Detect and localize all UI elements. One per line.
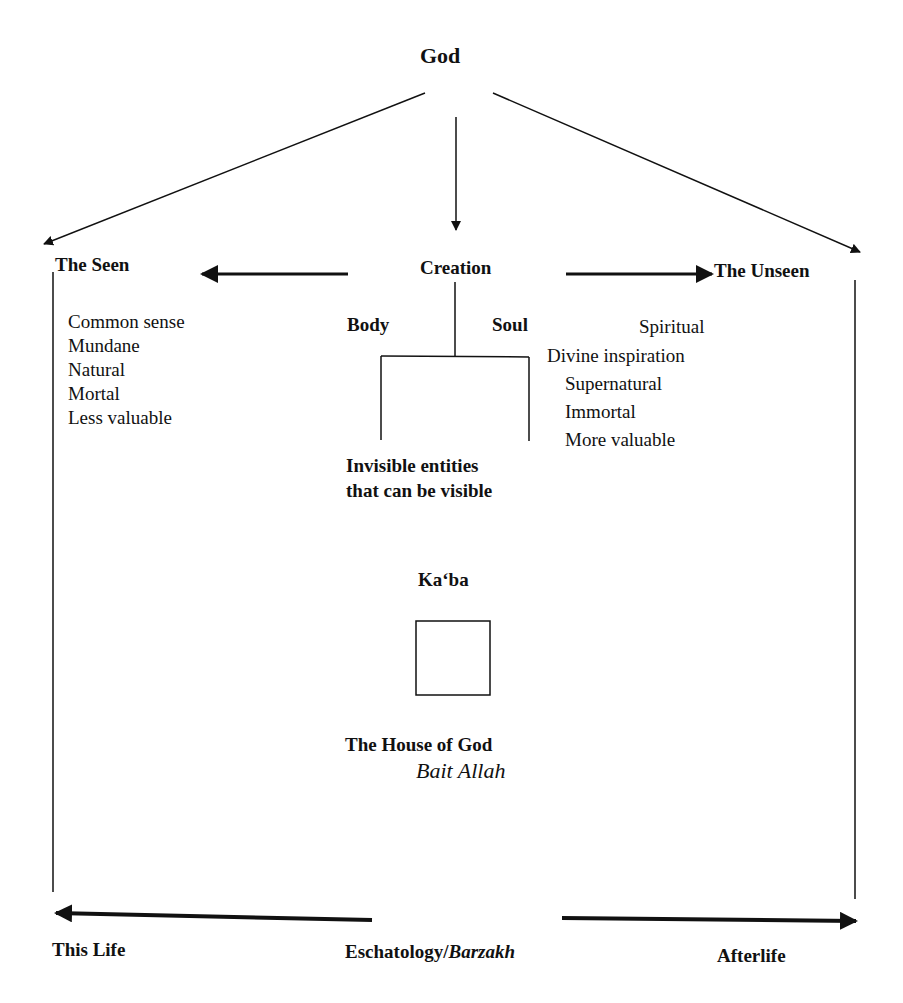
arrow-to-afterlife xyxy=(562,918,856,921)
kaaba-square xyxy=(416,621,490,695)
seen-qualities-list: Common sense Mundane Natural Mortal Less… xyxy=(68,310,185,430)
house-of-god-label: The House of God xyxy=(345,735,492,754)
arrow-god-to-unseen xyxy=(493,93,860,252)
node-this-life: This Life xyxy=(52,940,125,959)
arrow-to-this-life xyxy=(56,913,372,920)
seen-quality: Common sense xyxy=(68,310,185,334)
bait-allah-label: Bait Allah xyxy=(416,760,505,782)
unseen-quality: Supernatural xyxy=(565,374,662,393)
unseen-quality: Spiritual xyxy=(639,317,704,336)
seen-quality: Less valuable xyxy=(68,406,185,430)
node-god: God xyxy=(420,45,460,67)
node-the-unseen: The Unseen xyxy=(714,261,810,280)
seen-quality: Mortal xyxy=(68,382,185,406)
node-creation: Creation xyxy=(420,258,491,277)
node-body: Body xyxy=(347,315,389,334)
node-eschatology: Eschatology/Barzakh xyxy=(345,942,515,961)
unseen-quality: More valuable xyxy=(565,430,675,449)
unseen-quality: Immortal xyxy=(565,402,636,421)
node-soul: Soul xyxy=(492,315,528,334)
diagram-lines xyxy=(0,0,903,1003)
eschatology-text: Eschatology/ xyxy=(345,941,448,962)
seen-quality: Natural xyxy=(68,358,185,382)
node-kaaba: Ka‘ba xyxy=(418,570,469,589)
seen-quality: Mundane xyxy=(68,334,185,358)
node-the-seen: The Seen xyxy=(55,255,129,274)
unseen-quality: Divine inspiration xyxy=(547,346,685,365)
node-afterlife: Afterlife xyxy=(717,946,786,965)
arrow-god-to-seen xyxy=(44,93,425,244)
barzakh-text: Barzakh xyxy=(448,941,515,962)
invisible-entities-line1: Invisible entities xyxy=(346,456,478,475)
invisible-entities-line2: that can be visible xyxy=(346,481,492,500)
